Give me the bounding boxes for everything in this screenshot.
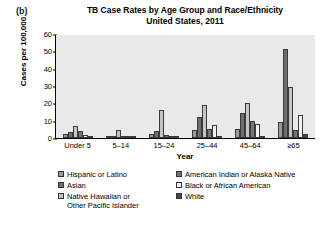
legend-item[interactable]: Hispanic or Latino xyxy=(58,170,166,179)
y-axis: 0102030405060 xyxy=(0,35,55,139)
y-axis-title: Cases per 100,000 xyxy=(19,0,28,104)
legend: Hispanic or LatinoAsianNative Hawaiian o… xyxy=(58,170,328,210)
y-axis-tick-label: 0 xyxy=(48,135,52,143)
legend-swatch-icon xyxy=(176,182,182,188)
x-axis-tick-label: Under 5 xyxy=(56,141,99,150)
y-axis-tick-label: 30 xyxy=(44,83,52,91)
legend-item[interactable]: Native Hawaiian or Other Pacific Islande… xyxy=(58,192,166,210)
chart-panel: (b) TB Case Rates by Age Group and Race/… xyxy=(0,0,334,229)
legend-item[interactable]: White xyxy=(176,192,326,201)
bar-group xyxy=(99,35,142,138)
chart-title-line1: TB Case Rates by Age Group and Race/Ethn… xyxy=(46,5,324,16)
bar xyxy=(260,136,265,138)
y-axis-tick-label: 40 xyxy=(44,66,52,74)
plot-area xyxy=(55,35,315,139)
y-axis-tick-label: 60 xyxy=(44,31,52,39)
x-axis-tick-label: ≥65 xyxy=(272,141,315,150)
legend-item-label: Native Hawaiian or Other Pacific Islande… xyxy=(67,192,139,210)
legend-column-right: American Indian or Alaska NativeBlack or… xyxy=(176,170,326,210)
legend-item-label: Hispanic or Latino xyxy=(67,170,127,179)
legend-item-label: Asian xyxy=(67,181,86,190)
y-axis-tick-label: 50 xyxy=(44,49,52,57)
legend-item-label: Black or African American xyxy=(185,181,270,190)
x-axis-tick-labels: Under 55–1415–2425–4445–64≥65 xyxy=(56,141,315,150)
x-axis-title: Year xyxy=(55,152,315,161)
chart-title: TB Case Rates by Age Group and Race/Ethn… xyxy=(46,5,324,26)
bar-group xyxy=(186,35,229,138)
legend-item-label: American Indian or Alaska Native xyxy=(185,170,295,179)
chart-title-line2: United States, 2011 xyxy=(46,16,324,27)
legend-swatch-icon xyxy=(176,193,182,199)
bar-group xyxy=(229,35,272,138)
x-axis-tick-label: 15–24 xyxy=(142,141,185,150)
bar xyxy=(303,134,308,138)
y-axis-tick-label: 10 xyxy=(44,118,52,126)
bar xyxy=(217,136,222,138)
bar-groups xyxy=(56,35,315,138)
legend-swatch-icon xyxy=(58,171,64,177)
bar xyxy=(131,136,136,138)
bar xyxy=(174,136,179,138)
x-axis-tick-label: 45–64 xyxy=(229,141,272,150)
bar xyxy=(88,136,93,138)
legend-swatch-icon xyxy=(58,182,64,188)
y-axis-tick-label: 20 xyxy=(44,101,52,109)
legend-item[interactable]: Asian xyxy=(58,181,166,190)
x-axis-tick-label: 5–14 xyxy=(99,141,142,150)
bar-group xyxy=(56,35,99,138)
legend-item[interactable]: American Indian or Alaska Native xyxy=(176,170,326,179)
legend-swatch-icon xyxy=(58,193,64,199)
legend-swatch-icon xyxy=(176,171,182,177)
legend-column-left: Hispanic or LatinoAsianNative Hawaiian o… xyxy=(58,170,166,210)
bar-group xyxy=(272,35,315,138)
legend-item-label: White xyxy=(185,192,204,201)
x-axis-tick-label: 25–44 xyxy=(186,141,229,150)
bar-group xyxy=(142,35,185,138)
legend-item[interactable]: Black or African American xyxy=(176,181,326,190)
